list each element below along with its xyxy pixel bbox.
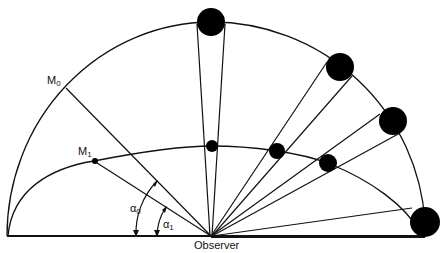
alpha0-arrow-top	[153, 180, 158, 187]
ray-cones	[197, 24, 412, 236]
diagram: M0 M1 α0 α1 Observer	[0, 0, 442, 253]
inner-ball-2	[269, 143, 285, 159]
outer-arc	[7, 22, 425, 236]
label-m0: M0	[47, 74, 61, 88]
sight-line-m1	[94, 161, 211, 236]
label-observer: Observer	[194, 239, 240, 251]
outer-ball-horizon	[410, 207, 440, 237]
inner-arc	[8, 146, 420, 236]
outer-ball-3	[379, 107, 407, 135]
inner-ball-1	[206, 140, 218, 152]
label-alpha1: α1	[163, 218, 174, 232]
label-m1: M1	[78, 145, 92, 159]
label-alpha0: α0	[130, 202, 141, 216]
outer-ball-2	[326, 53, 354, 81]
outer-ball-zenith	[197, 8, 225, 36]
diagram-svg: M0 M1 α0 α1 Observer	[0, 0, 442, 253]
inner-ball-3	[319, 154, 337, 172]
m1-point	[92, 158, 98, 164]
